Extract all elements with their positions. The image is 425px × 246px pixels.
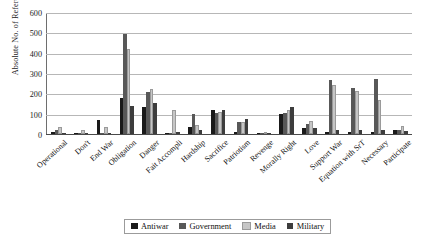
- legend-label: Military: [297, 222, 324, 231]
- bar-group: [275, 13, 298, 134]
- legend-label: Media: [254, 222, 275, 231]
- bar: [153, 103, 157, 134]
- plot-area: 0100200300400500600: [46, 13, 412, 135]
- bar: [290, 107, 294, 134]
- legend-item: Government: [179, 222, 231, 231]
- bar-group: [298, 13, 321, 134]
- bar-group: [93, 13, 116, 134]
- y-axis-tick-label: 600: [30, 9, 42, 18]
- legend-label: Antiwar: [141, 222, 168, 231]
- y-axis-tick-label: 200: [30, 90, 42, 99]
- x-axis-label: Operational: [35, 138, 69, 170]
- bar: [130, 106, 134, 134]
- y-axis-tick-label: 300: [30, 70, 42, 79]
- x-axis-label: Don't: [73, 138, 92, 156]
- legend-swatch: [242, 222, 251, 231]
- x-axis-label: Hardship: [179, 138, 207, 164]
- bar: [332, 85, 336, 134]
- legend-item: Antiwar: [131, 222, 168, 231]
- bar: [172, 110, 176, 134]
- bar-group: [366, 13, 389, 134]
- legend-swatch: [179, 223, 186, 230]
- legend-item: Media: [242, 222, 275, 231]
- chart-legend: AntiwarGovernmentMediaMilitary: [124, 219, 331, 234]
- y-axis-tick-label: 400: [30, 49, 42, 58]
- bar-group: [321, 13, 344, 134]
- bar-group: [184, 13, 207, 134]
- bar: [355, 91, 359, 135]
- bar-group: [115, 13, 138, 134]
- bar-group: [70, 13, 93, 134]
- bar-chart: Absolute No. of References 0100200300400…: [0, 0, 425, 246]
- bar-group: [252, 13, 275, 134]
- bar-group: [207, 13, 230, 134]
- legend-label: Government: [189, 222, 231, 231]
- bar-groups: [47, 13, 412, 134]
- bar-group: [230, 13, 253, 134]
- bar-group: [389, 13, 412, 134]
- bar-group: [47, 13, 70, 134]
- bar: [245, 119, 249, 134]
- bar-group: [161, 13, 184, 134]
- bar-group: [344, 13, 367, 134]
- legend-swatch: [287, 223, 294, 230]
- y-axis-tick-label: 0: [38, 131, 42, 140]
- legend-swatch: [131, 223, 138, 230]
- bar: [222, 110, 226, 134]
- y-axis-tick-label: 100: [30, 110, 42, 119]
- x-axis-line: [46, 134, 412, 135]
- bar-group: [138, 13, 161, 134]
- legend-item: Military: [287, 222, 324, 231]
- y-axis-tick-label: 500: [30, 29, 42, 38]
- x-axis-labels: OperationalDon'tEnd WarObligationDangerF…: [46, 136, 412, 198]
- y-axis-title: Absolute No. of References: [11, 0, 20, 89]
- x-axis-label: Love: [303, 138, 321, 156]
